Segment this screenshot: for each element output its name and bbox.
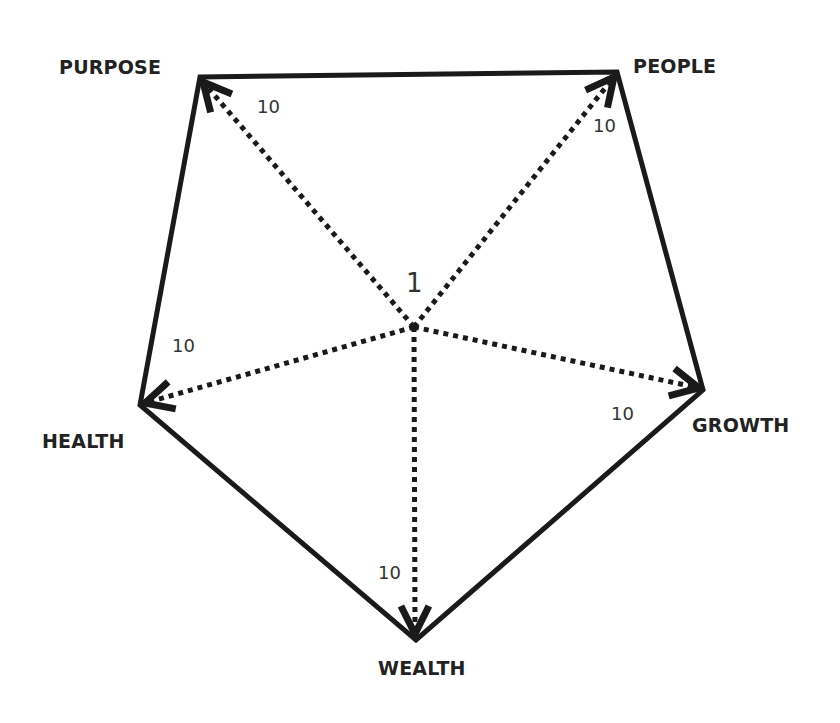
value-label-growth: 10 [611,403,634,424]
radar-chart [0,0,840,723]
value-label-wealth: 10 [378,562,401,583]
axis-label-growth: GROWTH [692,414,789,436]
axis-label-wealth: WEALTH [378,657,466,679]
value-label-health: 10 [172,335,195,356]
spoke-growth [414,327,699,388]
axis-spokes [145,77,699,634]
spoke-people [414,77,614,327]
value-label-purpose: 10 [257,96,280,117]
axis-label-purpose: PURPOSE [59,56,161,78]
score-outline [140,72,703,640]
value-label-people: 10 [593,115,616,136]
axis-label-health: HEALTH [42,430,125,452]
axis-label-people: PEOPLE [633,55,716,77]
center-scale-label: 1 [406,268,423,298]
spoke-wealth [414,327,415,634]
spoke-purpose [203,82,414,327]
